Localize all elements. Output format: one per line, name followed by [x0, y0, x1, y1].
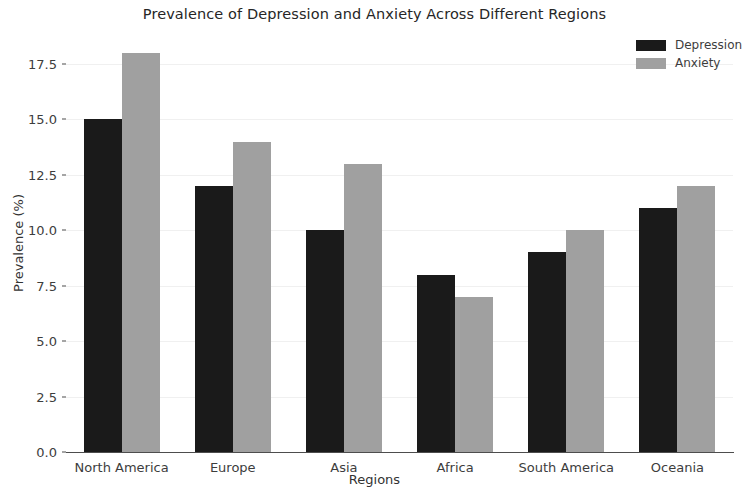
legend-item-depression: Depression	[636, 36, 749, 54]
gridline	[66, 397, 733, 398]
y-tick-mark	[62, 452, 66, 453]
y-tick-mark	[62, 119, 66, 120]
bar-anxiety-asia	[344, 164, 382, 452]
chart-legend: DepressionAnxiety	[636, 36, 749, 72]
y-tick-mark	[62, 341, 66, 342]
bar-depression-south-america	[528, 252, 566, 452]
bar-depression-asia	[306, 230, 344, 452]
bar-anxiety-oceania	[677, 186, 715, 452]
x-axis-label: Regions	[0, 472, 749, 487]
bar-anxiety-south-america	[566, 230, 604, 452]
y-tick-label: 17.5	[28, 57, 66, 72]
legend-label-depression: Depression	[675, 38, 742, 52]
chart-title: Prevalence of Depression and Anxiety Acr…	[0, 6, 749, 22]
bar-depression-europe	[195, 186, 233, 452]
gridlines	[66, 33, 733, 452]
y-tick-label: 10.0	[28, 223, 66, 238]
legend-swatch-depression	[636, 40, 666, 51]
bar-depression-africa	[417, 275, 455, 452]
y-tick-mark	[62, 64, 66, 65]
y-tick-mark	[62, 230, 66, 231]
bar-depression-oceania	[639, 208, 677, 452]
plot-area: 0.02.55.07.510.012.515.017.5 North Ameri…	[66, 33, 733, 452]
gridline	[66, 64, 733, 65]
gridline	[66, 175, 733, 176]
gridline	[66, 119, 733, 120]
gridline	[66, 286, 733, 287]
y-tick-mark	[62, 174, 66, 175]
legend-item-anxiety: Anxiety	[636, 54, 749, 72]
bar-anxiety-africa	[455, 297, 493, 452]
y-axis-label: Prevalence (%)	[11, 194, 26, 292]
gridline	[66, 341, 733, 342]
y-tick-mark	[62, 285, 66, 286]
y-tick-label: 15.0	[28, 112, 66, 127]
y-tick-mark	[62, 396, 66, 397]
bar-depression-north-america	[84, 119, 122, 452]
bar-anxiety-north-america	[122, 53, 160, 452]
y-tick-label: 12.5	[28, 167, 66, 182]
gridline	[66, 230, 733, 231]
bar-anxiety-europe	[233, 142, 271, 452]
legend-label-anxiety: Anxiety	[675, 56, 720, 70]
legend-swatch-anxiety	[636, 58, 666, 69]
chart-figure: Prevalence of Depression and Anxiety Acr…	[0, 0, 749, 495]
